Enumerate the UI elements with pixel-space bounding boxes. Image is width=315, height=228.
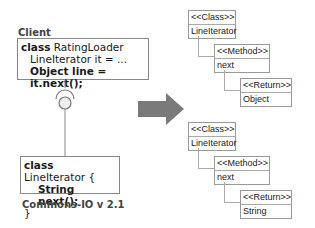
return-stereotype: <<Return>> bbox=[241, 191, 291, 205]
method-node-old: <<Method>> next bbox=[214, 44, 270, 73]
keyword-class: class bbox=[24, 159, 53, 171]
type-object: Object bbox=[30, 65, 72, 77]
class-node-new: <<Class>> LineIterator bbox=[188, 122, 236, 151]
library-label: Commons-IO v 2.1 bbox=[22, 199, 125, 210]
class-stereotype: <<Class>> bbox=[189, 11, 235, 25]
transform-arrow-icon bbox=[138, 93, 186, 125]
connector bbox=[198, 148, 215, 169]
client-code-box: class RatingLoader LineIterator it = ...… bbox=[17, 38, 149, 80]
return-stereotype: <<Return>> bbox=[241, 79, 291, 93]
method-node-new: <<Method>> next bbox=[214, 156, 270, 185]
method-stereotype: <<Method>> bbox=[215, 45, 269, 59]
type-string: String bbox=[38, 183, 74, 195]
keyword-class: class bbox=[21, 41, 50, 53]
field-declaration: LineIterator it = ... bbox=[21, 53, 145, 65]
connector bbox=[224, 70, 241, 91]
connector bbox=[224, 182, 241, 203]
interface-lollipop-icon bbox=[50, 80, 80, 156]
client-label: Client bbox=[18, 27, 51, 38]
class-name: LineIterator { bbox=[24, 171, 95, 183]
class-name: RatingLoader bbox=[50, 41, 123, 53]
library-code-box: class LineIterator { String next(); } bbox=[20, 156, 120, 194]
class-node-old: <<Class>> LineIterator bbox=[188, 10, 236, 39]
method-stereotype: <<Method>> bbox=[215, 157, 269, 171]
return-type: Object bbox=[241, 93, 291, 106]
return-type: String bbox=[241, 205, 291, 218]
return-node-old: <<Return>> Object bbox=[240, 78, 292, 107]
return-node-new: <<Return>> String bbox=[240, 190, 292, 219]
connector bbox=[198, 36, 215, 57]
class-stereotype: <<Class>> bbox=[189, 123, 235, 137]
